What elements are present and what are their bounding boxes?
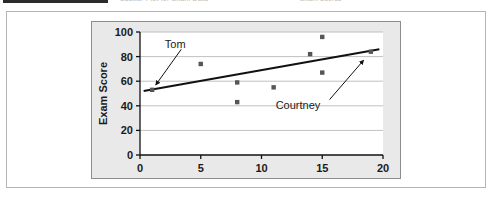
y-tick-label: 0 (127, 149, 133, 161)
plot-background (140, 32, 383, 155)
x-tick-labels: 05101520 (137, 162, 389, 174)
data-point-marker (271, 85, 275, 89)
x-tick-label: 10 (255, 162, 267, 174)
data-point-marker (199, 62, 203, 66)
y-tick-label: 100 (115, 26, 133, 38)
plot-area (140, 32, 383, 155)
data-point-marker (369, 49, 373, 53)
x-tick-label: 0 (137, 162, 143, 174)
data-point-marker (150, 88, 154, 92)
y-tick-labels: 020406080100 (115, 26, 133, 161)
scatter-plot: 020406080100 05101520 TomCourtney Hours … (91, 21, 401, 179)
x-tick-label: 20 (377, 162, 389, 174)
data-point-marker (235, 80, 239, 84)
header-rule (3, 0, 108, 3)
y-axis-title: Exam Score (97, 62, 109, 125)
page-header-strip: Scatter Plot for Exam Data Exam Scores (0, 0, 493, 7)
y-tick-label: 40 (121, 100, 133, 112)
data-point-marker (320, 70, 324, 74)
data-point-marker (235, 100, 239, 104)
y-tick-label: 20 (121, 124, 133, 136)
x-axis-title: Hours of Study (222, 178, 302, 179)
x-tick-label: 5 (198, 162, 204, 174)
section-title: Scatter Plot for Exam Data (120, 0, 208, 2)
y-tick-label: 60 (121, 75, 133, 87)
x-tick-label: 15 (316, 162, 328, 174)
data-point-marker (320, 35, 324, 39)
data-point-marker (308, 52, 312, 56)
annotation-label: Courtney (276, 99, 321, 111)
section-subtitle: Exam Scores (300, 0, 342, 2)
y-tick-label: 80 (121, 51, 133, 63)
annotation-label: Tom (165, 38, 186, 50)
